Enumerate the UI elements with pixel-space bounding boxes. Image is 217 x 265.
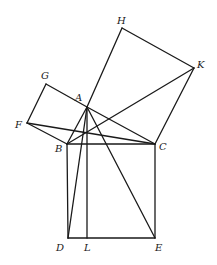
point-label-d: D bbox=[55, 242, 64, 253]
segment-bd bbox=[67, 144, 68, 238]
segment-hk bbox=[122, 28, 194, 68]
segment-gf bbox=[27, 84, 46, 123]
point-label-g: G bbox=[41, 70, 49, 81]
point-label-k: K bbox=[196, 59, 205, 70]
point-label-e: E bbox=[154, 242, 163, 253]
point-label-a: A bbox=[74, 92, 82, 103]
point-label-l: L bbox=[83, 242, 91, 253]
point-label-f: F bbox=[14, 119, 23, 130]
segment-ad bbox=[68, 107, 87, 238]
labels-group: ABCDELFGHK bbox=[14, 15, 205, 253]
point-label-b: B bbox=[54, 143, 62, 154]
point-label-h: H bbox=[116, 15, 126, 26]
segments-group bbox=[27, 28, 194, 238]
point-label-c: C bbox=[159, 141, 167, 152]
pythagorean-diagram: ABCDELFGHK bbox=[0, 0, 217, 265]
segment-ah bbox=[87, 28, 122, 107]
